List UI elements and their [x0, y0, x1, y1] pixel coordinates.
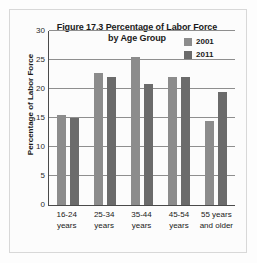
bar-groups: [49, 31, 235, 205]
x-axis-label-line-1: 16-24: [48, 209, 85, 220]
bar-2011-35-44-years: [144, 84, 153, 205]
plot-area: 051015202530: [48, 31, 235, 206]
bar-group: [86, 31, 123, 205]
bar-group: [198, 31, 235, 205]
bar-2011-25-34-years: [107, 77, 116, 205]
x-axis-label: 16-24years: [48, 209, 85, 231]
bar-2001-45-54-years: [168, 77, 177, 205]
figure-container: Figure 17.3 Percentage of Labor Force by…: [0, 0, 257, 263]
x-axis-label: 55 yearsand older: [198, 209, 235, 231]
x-axis-label-line-1: 45-54: [160, 209, 197, 220]
y-tick-label-10: 10: [36, 142, 45, 151]
bar-group: [123, 31, 160, 205]
x-axis-label-line-1: 35-44: [123, 209, 160, 220]
bar-2011-45-54-years: [181, 77, 190, 205]
x-axis-label-line-1: 55 years: [198, 209, 235, 220]
y-tick-label-25: 25: [36, 55, 45, 64]
bar-2011-55-years-and-older: [218, 92, 227, 205]
x-axis-label-line-2: years: [48, 220, 85, 231]
y-tick-label-20: 20: [36, 84, 45, 93]
x-axis-label: 25-34years: [85, 209, 122, 231]
bar-2011-16-24-years: [70, 118, 79, 205]
x-axis-label-line-1: 25-34: [85, 209, 122, 220]
y-tick-label-5: 5: [41, 171, 45, 180]
bar-2001-35-44-years: [131, 57, 140, 205]
bar-group: [161, 31, 198, 205]
x-axis-label-line-2: years: [85, 220, 122, 231]
bar-2001-55-years-and-older: [205, 121, 214, 205]
bar-group: [49, 31, 86, 205]
bar-2001-25-34-years: [94, 73, 103, 205]
x-axis-labels: 16-24years25-34years35-44years45-54years…: [48, 209, 235, 231]
x-axis-label-line-2: years: [123, 220, 160, 231]
x-axis-label: 45-54years: [160, 209, 197, 231]
y-tick-label-30: 30: [36, 26, 45, 35]
x-axis-label: 35-44years: [123, 209, 160, 231]
x-axis-label-line-2: years: [160, 220, 197, 231]
y-axis-title: Percentage of Labor Force: [26, 30, 35, 180]
y-tick-label-15: 15: [36, 113, 45, 122]
y-tick-label-0: 0: [41, 200, 45, 209]
x-axis-label-line-2: and older: [198, 220, 235, 231]
bar-2001-16-24-years: [57, 115, 66, 205]
